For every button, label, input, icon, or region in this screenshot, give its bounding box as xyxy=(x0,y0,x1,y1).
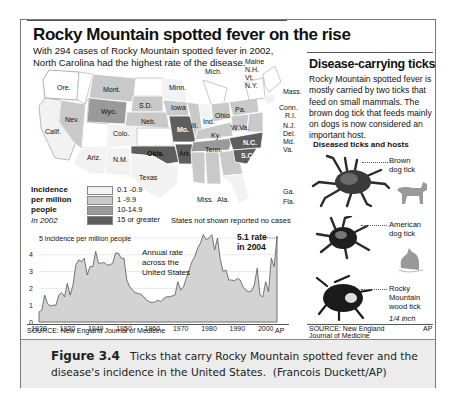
svg-text:2000: 2000 xyxy=(258,325,274,332)
legend-title: people xyxy=(31,205,57,215)
state-label: Ariz. xyxy=(87,154,101,161)
state-label: N.M. xyxy=(113,156,128,163)
state-label: Mo. xyxy=(177,126,189,133)
tick-label-american: American dog tick xyxy=(389,220,421,238)
figure-caption: Figure 3.4 Ticks that carry Rocky Mounta… xyxy=(21,339,435,388)
figure-label: Figure 3.4 xyxy=(51,349,120,363)
state-label: S.C. xyxy=(241,152,255,159)
credit: AP xyxy=(275,327,284,334)
legend-label: 1 -9.9 xyxy=(117,195,136,204)
caption-credit: (Francois Duckett/AP) xyxy=(273,366,387,378)
svg-text:1990: 1990 xyxy=(230,325,246,332)
caption-text: Figure 3.4 Ticks that carry Rocky Mounta… xyxy=(51,348,421,380)
panel-title: Disease-carrying ticks xyxy=(309,57,435,71)
leader-line xyxy=(361,225,387,226)
leader-line xyxy=(362,162,388,163)
state-label: Mont. xyxy=(103,86,121,93)
state-label: Tenn. xyxy=(205,146,222,153)
state-label: Va. xyxy=(283,146,293,153)
state-label: Ill. xyxy=(191,122,198,129)
legend-swatch xyxy=(87,196,113,205)
state-label: Mich. xyxy=(205,68,222,75)
tick-label-wood: Rocky Mountain wood tick xyxy=(389,284,421,311)
figure-frame: Rocky Mountain spotted fever on the rise… xyxy=(20,19,436,388)
leader-line xyxy=(361,289,387,290)
incidence-chart: 0123419201930194019501960197019801990200… xyxy=(27,234,289,334)
map-legend: Incidence per million people In 2002 0.1… xyxy=(29,185,299,233)
tick-name: wood tick xyxy=(389,302,421,311)
legend-year: In 2002 xyxy=(31,216,58,225)
source: SOURCE: New England Journal of Medicine xyxy=(27,327,165,334)
state-label: Ky. xyxy=(211,132,221,139)
tick-name: Brown xyxy=(389,156,415,165)
svg-text:4: 4 xyxy=(29,251,33,258)
panel-subheading: Diseased ticks and hosts xyxy=(313,140,409,149)
divider xyxy=(307,52,433,53)
tick-name: Mountain xyxy=(389,293,421,302)
legend-swatch xyxy=(87,216,113,225)
left-panel: Rocky Mountain spotted fever on the rise… xyxy=(27,20,289,338)
mouse-icon xyxy=(395,246,425,274)
y-axis-title: 5 incidence per million people xyxy=(39,235,133,242)
legend-swatch xyxy=(87,206,113,215)
divider xyxy=(27,324,289,325)
legend-title: Incidence xyxy=(31,185,68,195)
legend-label: 10-14.9 xyxy=(117,205,142,214)
state-label: Nev. xyxy=(65,116,79,123)
source-line: SOURCE: New England xyxy=(309,325,384,332)
callout-line: 5.1 rate xyxy=(237,232,267,242)
svg-text:1: 1 xyxy=(29,302,33,309)
state-label: Minn. xyxy=(169,84,186,91)
tick-name: American xyxy=(389,220,421,229)
state-label: Vt. xyxy=(245,74,254,81)
state-label: Colo. xyxy=(113,130,129,137)
state-label: N.Y. xyxy=(245,82,258,89)
svg-text:3: 3 xyxy=(29,268,33,275)
scale-label: 1/4 inch xyxy=(389,314,416,323)
state-label: Calif. xyxy=(45,128,61,135)
svg-text:1980: 1980 xyxy=(201,325,217,332)
state-label: Mass. xyxy=(283,88,302,95)
american-dog-tick-icon xyxy=(315,216,375,260)
tick-name: dog tick xyxy=(389,229,421,238)
state-label: Pa. xyxy=(235,106,246,113)
right-panel: Disease-carrying ticks Rocky Mountain sp… xyxy=(301,20,435,338)
source-line: Journal of Medicine xyxy=(309,332,384,339)
state-label: Del. xyxy=(283,130,295,137)
source: SOURCE: New England Journal of Medicine xyxy=(309,325,384,339)
state-label: Wyo. xyxy=(101,108,117,115)
dog-icon xyxy=(395,180,429,206)
tick-name: dog tick xyxy=(389,165,415,174)
state-label: Iowa xyxy=(171,104,186,111)
state-label: Texas xyxy=(139,174,157,181)
panel-body: Rocky Mountain spotted fever is mostly c… xyxy=(309,74,433,142)
legend-label: 15 or greater xyxy=(117,215,160,224)
tick-name: Rocky xyxy=(389,284,421,293)
state-label: Conn. xyxy=(279,104,298,111)
tick-label-brown: Brown dog tick xyxy=(389,156,415,174)
callout: 5.1 rate in 2004 xyxy=(237,232,267,252)
map-note: States not shown reported no cases xyxy=(171,216,291,225)
state-label: W.Va. xyxy=(231,124,249,131)
credit: AP xyxy=(423,325,432,332)
state-label: Md. xyxy=(283,138,295,145)
svg-text:2: 2 xyxy=(29,285,33,292)
legend-label: 0.1 -0.9 xyxy=(117,185,142,194)
state-label: Ohio xyxy=(215,112,230,119)
state-label: Ark. xyxy=(179,150,191,157)
state-label: Ore. xyxy=(57,84,71,91)
wood-tick-icon xyxy=(315,274,379,322)
state-label: Maine xyxy=(245,58,264,65)
state-label: N.J. xyxy=(283,122,295,129)
svg-text:1970: 1970 xyxy=(173,325,189,332)
state-label: N.H. xyxy=(245,66,259,73)
chart-annotation: Annual rate across the United States xyxy=(142,248,202,278)
legend-swatch xyxy=(87,186,113,195)
state-label: N.C. xyxy=(243,139,257,146)
state-label: Okla. xyxy=(147,150,164,157)
state-label: Ind. xyxy=(203,118,215,125)
state-label: S.D. xyxy=(139,102,153,109)
divider xyxy=(27,20,287,21)
callout-line: in 2004 xyxy=(237,242,267,252)
state-label: R.I. xyxy=(285,112,296,119)
